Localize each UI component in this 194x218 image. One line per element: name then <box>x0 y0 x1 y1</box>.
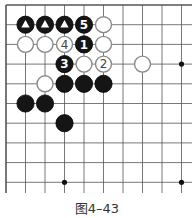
move-number-label: 2 <box>100 57 108 71</box>
black-stone <box>17 16 34 33</box>
star-point <box>179 180 184 185</box>
black-stone <box>36 16 53 33</box>
star-point <box>62 180 67 185</box>
black-stone <box>36 95 53 112</box>
black-stone <box>56 16 73 33</box>
black-stone <box>56 75 73 92</box>
white-stone <box>37 36 53 52</box>
move-number-label: 5 <box>80 18 88 32</box>
star-point <box>179 62 184 67</box>
black-stone: 1 <box>75 36 92 53</box>
black-stone: 3 <box>56 56 73 73</box>
white-stone: 2 <box>96 56 112 72</box>
white-stone <box>18 36 34 52</box>
white-stone <box>96 36 112 52</box>
move-number-label: 3 <box>60 57 68 71</box>
move-number-label: 1 <box>80 38 88 52</box>
figure-caption: 图4–43 <box>0 198 194 217</box>
black-stone: 5 <box>75 16 92 33</box>
white-stone <box>96 17 112 33</box>
white-stone: 4 <box>57 36 73 52</box>
move-number-label: 4 <box>61 38 69 52</box>
white-stone <box>37 76 53 92</box>
go-board: 54132 <box>0 0 194 196</box>
white-stone <box>76 56 92 72</box>
grid-lines <box>6 5 192 193</box>
white-stone <box>135 56 151 72</box>
black-stone <box>95 75 112 92</box>
black-stone <box>17 95 34 112</box>
black-stone <box>56 115 73 132</box>
black-stone <box>75 75 92 92</box>
